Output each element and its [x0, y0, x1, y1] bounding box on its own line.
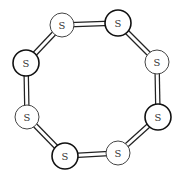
atom-label: S [59, 20, 66, 31]
sulfur-atom-s1: S [50, 13, 74, 37]
sulfur-atom-s3: S [145, 50, 169, 74]
atom-label: S [115, 148, 122, 159]
atoms-layer: SSSSSSSS [13, 10, 171, 169]
atom-label: S [62, 151, 69, 162]
atom-label: S [115, 18, 122, 29]
sulfur-atom-s7: S [15, 105, 39, 129]
bonds-layer [26, 23, 158, 156]
sulfur-atom-s4: S [145, 104, 171, 130]
sulfur-atom-s8: S [13, 50, 39, 76]
atom-label: S [155, 112, 162, 123]
sulfur-atom-s6: S [52, 143, 78, 169]
atom-label: S [23, 58, 30, 69]
atom-label: S [24, 112, 31, 123]
atom-label: S [154, 57, 161, 68]
sulfur-atom-s2: S [105, 10, 131, 36]
sulfur-atom-s5: S [106, 141, 130, 165]
s8-ring-diagram: SSSSSSSS [0, 0, 185, 182]
